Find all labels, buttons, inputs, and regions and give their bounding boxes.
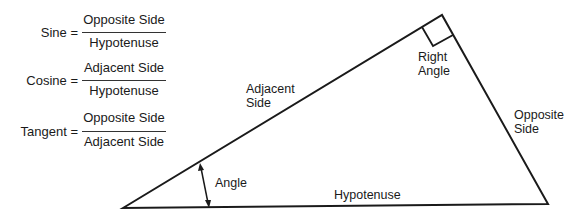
adjacent-side-label: Adjacent Side xyxy=(246,82,295,110)
triangle-outline xyxy=(123,15,548,208)
right-angle-label: Right Angle xyxy=(418,50,450,78)
adjacent-side-label-line1: Adjacent xyxy=(246,82,295,96)
right-angle-marker xyxy=(422,27,453,46)
angle-label: Angle xyxy=(215,176,247,190)
opposite-side-label: Opposite Side xyxy=(514,108,564,136)
opposite-side-label-line2: Side xyxy=(514,122,564,136)
right-angle-label-line2: Angle xyxy=(418,64,450,78)
angle-arrow-icon xyxy=(198,163,211,208)
right-triangle-diagram xyxy=(0,0,582,222)
adjacent-side-label-line2: Side xyxy=(246,96,295,110)
opposite-side-label-line1: Opposite xyxy=(514,108,564,122)
hypotenuse-label: Hypotenuse xyxy=(334,188,401,202)
right-angle-label-line1: Right xyxy=(418,50,450,64)
